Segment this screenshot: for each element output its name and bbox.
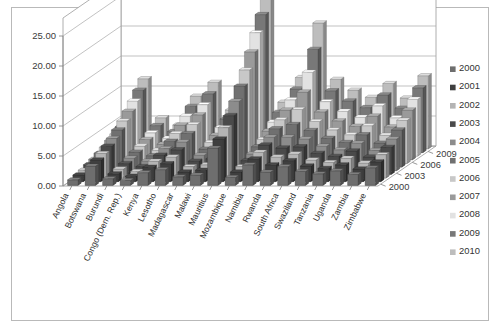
y-axis-tick-label: 20.00: [32, 60, 56, 71]
legend-label: 2003: [459, 117, 480, 128]
bar: [103, 176, 117, 185]
bar: [295, 169, 309, 185]
depth-axis-label: 2000: [389, 182, 410, 192]
y-axis-tick-label: 15.00: [32, 90, 56, 101]
legend-swatch: [450, 158, 456, 164]
legend-label: 2002: [459, 99, 480, 110]
legend-label: 2001: [459, 80, 480, 91]
legend-item-2007[interactable]: 2007: [450, 190, 480, 201]
bar: [225, 175, 239, 185]
legend-swatch: [450, 231, 456, 237]
bar: [68, 178, 82, 186]
legend-swatch: [450, 140, 456, 146]
y-axis-tick-label: 0.00: [38, 180, 57, 191]
depth-axis-label: 2009: [436, 149, 457, 159]
bar: [348, 172, 362, 185]
legend-label: 2007: [459, 190, 480, 201]
chart-legend[interactable]: 2000200120022003200420052006200720082009…: [450, 62, 480, 256]
bar: [208, 146, 222, 185]
y-axis-tick-label: 5.00: [38, 150, 57, 161]
bar: [120, 178, 134, 185]
bar: [260, 170, 274, 185]
legend-label: 2008: [459, 208, 480, 219]
legend-label: 2000: [459, 62, 480, 73]
legend-item-2001[interactable]: 2001: [450, 80, 480, 91]
legend-label: 2004: [459, 135, 480, 146]
legend-swatch: [450, 176, 456, 182]
three-d-bar-chart: 0.005.0010.0015.0020.0025.00 AngolaBotsw…: [0, 0, 503, 335]
legend-label: 2009: [459, 227, 480, 238]
bar: [85, 164, 99, 185]
legend-item-2009[interactable]: 2009: [450, 227, 480, 238]
bar: [243, 163, 257, 186]
legend-item-2008[interactable]: 2008: [450, 208, 480, 219]
legend-label: 2010: [459, 245, 480, 256]
legend-swatch: [450, 121, 456, 127]
legend-item-2010[interactable]: 2010: [450, 245, 480, 256]
legend-item-2003[interactable]: 2003: [450, 117, 480, 128]
legend-swatch: [450, 213, 456, 219]
bar: [138, 170, 152, 185]
legend-item-2000[interactable]: 2000: [450, 62, 480, 73]
depth-axis-label: 2006: [420, 160, 441, 170]
bar: [313, 172, 327, 186]
depth-axis-label: 2003: [404, 171, 425, 181]
legend-item-2006[interactable]: 2006: [450, 172, 480, 183]
bar: [365, 166, 379, 186]
bar: [330, 169, 344, 186]
legend-swatch: [450, 195, 456, 201]
legend-swatch: [450, 85, 456, 91]
legend-swatch: [450, 103, 456, 109]
legend-swatch: [450, 249, 456, 255]
bar: [190, 173, 204, 185]
legend-swatch: [450, 66, 456, 72]
bar: [155, 167, 169, 185]
legend-label: 2006: [459, 172, 480, 183]
y-axis-labels: 0.005.0010.0015.0020.0025.00: [32, 30, 63, 191]
legend-item-2004[interactable]: 2004: [450, 135, 480, 146]
category-axis-labels: AngolaBotswanaBurundiCongo (Dem. Rep.)Ke…: [50, 186, 369, 263]
legend-label: 2005: [459, 154, 480, 165]
bar: [173, 175, 187, 186]
bar: [278, 164, 292, 185]
y-axis-tick-label: 10.00: [32, 120, 56, 131]
y-axis-tick-label: 25.00: [32, 30, 56, 41]
legend-item-2002[interactable]: 2002: [450, 99, 480, 110]
